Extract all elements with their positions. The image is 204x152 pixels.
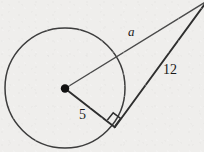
- circle-center-dot: [61, 84, 69, 92]
- geometry-figure: a 12 5: [0, 0, 204, 152]
- label-hypotenuse-a: a: [128, 25, 135, 38]
- segment-tangent-12: [115, 1, 204, 127]
- label-tangent-length: 12: [163, 63, 177, 77]
- label-radius-length: 5: [79, 108, 86, 122]
- segment-hypotenuse-a: [65, 1, 204, 89]
- segment-radius-5: [65, 89, 115, 128]
